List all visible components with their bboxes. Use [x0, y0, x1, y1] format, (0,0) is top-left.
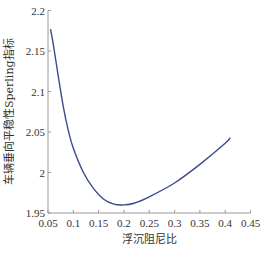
y-axis: 1.9522.052.12.152.2: [26, 5, 51, 220]
series-group: [51, 29, 231, 205]
x-tick-label: 0.25: [140, 217, 160, 229]
x-tick-label: 0.2: [117, 217, 131, 229]
x-tick-label: 0.4: [218, 217, 232, 229]
x-axis-title: 浮沉阻尼比: [122, 233, 177, 246]
x-tick-label: 0.15: [89, 217, 109, 229]
x-tick-label: 0.3: [168, 217, 182, 229]
y-tick-label: 2: [40, 167, 46, 179]
x-tick-label: 0.1: [66, 217, 80, 229]
series-line: [51, 29, 231, 205]
y-tick-label: 2.15: [26, 45, 46, 57]
x-axis: 0.050.10.150.20.250.30.350.40.45: [38, 210, 260, 229]
y-tick-label: 2.2: [31, 5, 45, 17]
y-tick-label: 2.05: [26, 126, 46, 138]
line-chart: 1.9522.052.12.152.2 0.050.10.150.20.250.…: [0, 0, 265, 254]
x-tick-label: 0.35: [190, 217, 210, 229]
y-axis-title: 车辆垂向平稳性Sperling指标: [2, 38, 16, 185]
x-tick-label: 0.45: [241, 217, 261, 229]
x-tick-label: 0.05: [38, 217, 58, 229]
y-ticks: 1.9522.052.12.152.2: [26, 5, 51, 220]
y-tick-label: 2.1: [31, 86, 45, 98]
